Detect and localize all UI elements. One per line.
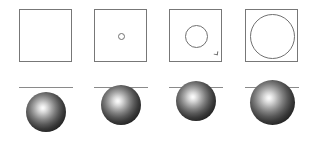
square-frame-1 xyxy=(19,9,72,62)
panel-2 xyxy=(83,0,161,151)
square-frame-4 xyxy=(245,9,298,62)
sphere-4 xyxy=(250,80,295,125)
sphere-1 xyxy=(26,92,66,132)
panel-1 xyxy=(8,0,86,151)
sphere-2 xyxy=(101,85,141,125)
circle-outline-2 xyxy=(118,33,125,40)
circle-outline-3 xyxy=(185,25,208,48)
circle-notch-icon xyxy=(214,51,219,56)
sphere-3 xyxy=(176,81,216,121)
panel-3 xyxy=(158,0,236,151)
surface-line-1 xyxy=(19,87,73,88)
circle-outline-4 xyxy=(250,14,295,59)
square-frame-2 xyxy=(94,9,147,62)
panel-4 xyxy=(234,0,312,151)
sphere-penetration-figure xyxy=(0,0,322,151)
square-frame-3 xyxy=(169,9,222,62)
